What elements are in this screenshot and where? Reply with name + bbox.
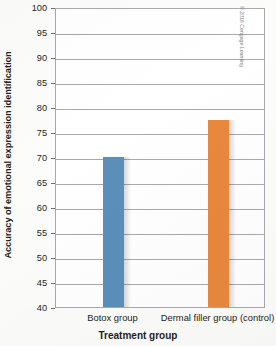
credit-line: © 2016 Cengage Learning [265, 6, 276, 116]
y-tick-mark [51, 8, 55, 9]
gridline [56, 84, 264, 85]
x-tick-label: Botox group [87, 312, 138, 323]
gridline [56, 59, 264, 60]
credit-text: © 2016 Cengage Learning [239, 6, 245, 67]
y-axis-title-text: Accuracy of emotional expression identif… [3, 51, 13, 258]
y-axis-tick-labels: 100959085807570656055504540 [16, 0, 51, 346]
y-tick-label: 45 [17, 278, 47, 288]
y-tick-label: 60 [17, 203, 47, 213]
bar [208, 120, 229, 308]
y-tick-mark [51, 58, 55, 59]
y-tick-mark [51, 133, 55, 134]
x-axis-tick-labels: Botox groupDermal filler group (control) [0, 312, 276, 330]
chart-figure: Accuracy of emotional expression identif… [0, 0, 276, 346]
y-tick-label: 65 [17, 178, 47, 188]
y-tick-mark [51, 183, 55, 184]
y-axis-title: Accuracy of emotional expression identif… [0, 0, 16, 310]
y-tick-label: 50 [17, 253, 47, 263]
y-tick-mark [51, 283, 55, 284]
bar-shadow [229, 120, 236, 308]
y-tick-label: 70 [17, 153, 47, 163]
y-tick-mark [51, 158, 55, 159]
y-tick-mark [51, 258, 55, 259]
y-tick-label: 55 [17, 228, 47, 238]
x-axis-title: Treatment group [0, 330, 276, 341]
y-tick-label: 95 [17, 28, 47, 38]
y-tick-label: 75 [17, 128, 47, 138]
y-tick-mark [51, 83, 55, 84]
y-tick-mark [51, 208, 55, 209]
y-tick-mark [51, 308, 55, 309]
y-tick-label: 90 [17, 53, 47, 63]
y-tick-mark [51, 108, 55, 109]
gridline [56, 34, 264, 35]
y-tick-label: 80 [17, 103, 47, 113]
x-tick-label: Dermal filler group (control) [161, 312, 275, 323]
y-tick-label: 100 [17, 3, 47, 13]
bar-shadow [124, 157, 131, 307]
plot-area [55, 8, 265, 308]
y-tick-label: 85 [17, 78, 47, 88]
bar [103, 157, 124, 307]
y-tick-mark [51, 33, 55, 34]
y-tick-mark [51, 233, 55, 234]
gridline [56, 109, 264, 110]
